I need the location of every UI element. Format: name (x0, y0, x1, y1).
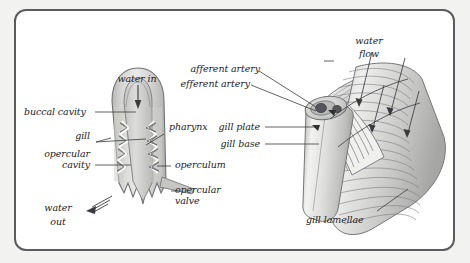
label-gill: gill (44, 130, 90, 141)
label-operculum: operculum (175, 159, 226, 170)
label-gill-plate: gill plate (202, 121, 260, 132)
label-opercular-valve-line1: opercular (175, 184, 221, 195)
label-water-flow-line1: water (343, 35, 395, 46)
figure-root: buccal cavity water in pharynx gill oper… (0, 0, 470, 263)
label-gill-lamellae: gill lamellae (306, 214, 364, 225)
water-out-arrow-icon (86, 196, 112, 214)
label-water-out-line1: water (34, 202, 82, 213)
label-opercular-valve-line2: valve (175, 195, 200, 206)
figure-panel: buccal cavity water in pharynx gill oper… (14, 9, 455, 251)
label-water-flow-line2: flow (343, 48, 395, 59)
label-water-out-line2: out (34, 216, 82, 227)
label-efferent-artery: efferent artery (174, 78, 250, 89)
label-opercular-cavity-line2: cavity (24, 159, 90, 170)
afferent-artery-lumen (316, 103, 327, 112)
label-buccal-cavity: buccal cavity (24, 106, 86, 117)
label-afferent-artery: afferent artery (184, 63, 260, 74)
label-gill-base: gill base (202, 138, 260, 149)
label-opercular-cavity-line1: opercular (24, 148, 90, 159)
label-water-in: water in (100, 73, 174, 84)
gill-arch-group (251, 52, 445, 235)
